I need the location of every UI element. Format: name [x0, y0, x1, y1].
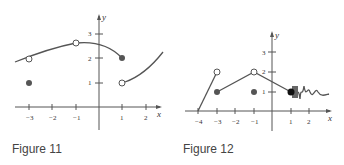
svg-text:y: y	[101, 12, 106, 22]
svg-text:2: 2	[144, 114, 148, 122]
svg-text:2: 2	[88, 55, 92, 63]
svg-text:−2: −2	[49, 114, 57, 122]
svg-text:2: 2	[307, 118, 311, 126]
figures-canvas: −3−2 −11 2 12 3 yx −4−3 −2−1 12 12 3	[0, 0, 344, 165]
figure-12-caption: Figure 12	[183, 142, 234, 156]
svg-text:1: 1	[289, 118, 293, 126]
figure-11-labels: −3−2 −11 2 12 3 yx	[26, 12, 161, 122]
svg-text:3: 3	[262, 49, 266, 57]
svg-text:−2: −2	[232, 118, 240, 126]
svg-text:−3: −3	[214, 118, 222, 126]
svg-text:2: 2	[262, 68, 266, 76]
svg-text:1: 1	[262, 88, 266, 96]
svg-text:3: 3	[88, 30, 92, 38]
svg-text:x: x	[156, 109, 161, 119]
svg-text:−1: −1	[73, 114, 81, 122]
figure-12-graph	[185, 31, 332, 131]
svg-text:1: 1	[120, 114, 124, 122]
figure-11-caption: Figure 11	[12, 142, 62, 156]
svg-text:1: 1	[88, 79, 92, 87]
figure-12-labels: −4−3 −2−1 12 12 3 yx	[195, 30, 332, 126]
svg-text:y: y	[274, 30, 279, 40]
svg-text:x: x	[327, 113, 332, 123]
svg-text:−4: −4	[195, 118, 203, 126]
svg-text:−3: −3	[26, 114, 34, 122]
svg-text:−1: −1	[251, 118, 259, 126]
